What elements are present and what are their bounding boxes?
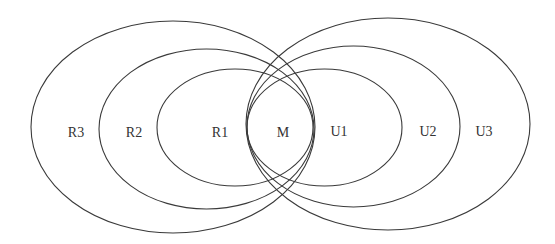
label-group: R3 R2 R1 M U1 U2 U3 xyxy=(68,124,493,140)
ellipse-r1 xyxy=(157,69,313,186)
label-r1: R1 xyxy=(212,125,228,140)
label-m: M xyxy=(277,125,290,140)
label-u2: U2 xyxy=(419,124,436,139)
venn-diagram: R3 R2 R1 M U1 U2 U3 xyxy=(0,0,555,244)
label-r3: R3 xyxy=(68,125,84,140)
ellipse-u1 xyxy=(247,69,402,186)
label-u1: U1 xyxy=(330,124,347,139)
label-r2: R2 xyxy=(126,125,142,140)
label-u3: U3 xyxy=(475,124,492,139)
